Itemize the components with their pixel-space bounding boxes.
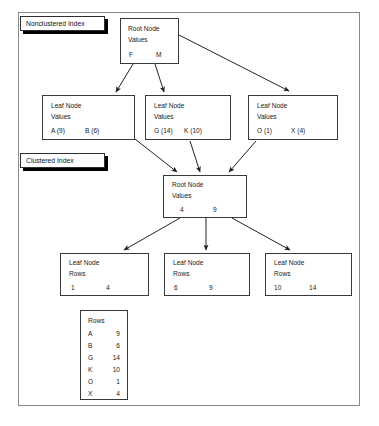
node-nonclustered-leaf-2: Leaf Node Values G (14) K (10) (145, 95, 231, 140)
node-nonclustered-leaf-3-line2: Values (257, 114, 277, 121)
node-clustered-leaf-1-key1: 1 (71, 285, 75, 292)
node-nonclustered-leaf-2-key2: K (10) (184, 128, 202, 135)
node-nonclustered-leaf-2-key1: G (14) (154, 128, 173, 135)
node-nonclustered-root: Root Node Values F M (120, 18, 179, 64)
node-clustered-leaf-3-key2: 14 (309, 285, 316, 292)
rows-table-key-4: O (88, 378, 93, 385)
rows-table-key-3: K (88, 366, 92, 373)
node-clustered-leaf-3-line2: Rows (274, 271, 291, 278)
rows-table-value-0: 9 (116, 330, 120, 337)
rows-table-value-3: 10 (113, 366, 120, 373)
node-nonclustered-leaf-3: Leaf Node Values O (1) X (4) (248, 95, 338, 140)
node-nonclustered-root-key2: M (156, 52, 162, 59)
rows-table-key-1: B (88, 342, 92, 349)
rows-table-key-2: G (88, 354, 93, 361)
label-clustered-index-text: Clustered Index (26, 157, 74, 164)
label-nonclustered-index: Nonclustered Index (20, 16, 105, 31)
node-nonclustered-leaf-1-key2: B (6) (85, 128, 99, 135)
node-nonclustered-leaf-1-line2: Values (51, 114, 71, 121)
diagram-canvas: Nonclustered Index Clustered Index Root … (0, 0, 379, 426)
node-clustered-leaf-1-line1: Leaf Node (69, 260, 99, 267)
node-nonclustered-root-line2: Values (128, 37, 148, 44)
node-clustered-leaf-2-key1: 6 (174, 285, 178, 292)
node-clustered-leaf-2-line1: Leaf Node (173, 260, 203, 267)
node-nonclustered-leaf-3-line1: Leaf Node (257, 103, 287, 110)
node-clustered-leaf-2-key2: 9 (209, 285, 213, 292)
rows-table-key-0: A (88, 330, 92, 337)
rows-table-value-2: 14 (113, 354, 120, 361)
node-clustered-leaf-3: Leaf Node Rows 10 14 (265, 253, 352, 296)
label-clustered-index: Clustered Index (20, 153, 105, 168)
node-clustered-leaf-1: Leaf Node Rows 1 4 (60, 253, 149, 296)
rows-table-value-4: 1 (116, 378, 120, 385)
node-nonclustered-leaf-2-line2: Values (154, 114, 174, 121)
node-clustered-leaf-1-key2: 4 (106, 285, 110, 292)
node-clustered-leaf-2: Leaf Node Rows 6 9 (164, 253, 250, 296)
node-nonclustered-leaf-1-key1: A (9) (51, 128, 65, 135)
node-clustered-root-key1: 4 (180, 207, 184, 214)
node-nonclustered-root-line1: Root Node (128, 26, 160, 33)
node-clustered-leaf-3-line1: Leaf Node (274, 260, 304, 267)
node-clustered-root-key2: 9 (213, 207, 217, 214)
node-nonclustered-leaf-3-key1: O (1) (257, 128, 272, 135)
rows-table-value-1: 6 (116, 342, 120, 349)
node-clustered-leaf-1-line2: Rows (69, 271, 86, 278)
rows-table-value-5: 4 (116, 390, 120, 397)
node-nonclustered-root-key1: F (129, 52, 133, 59)
node-clustered-root-line2: Values (172, 193, 192, 200)
node-clustered-root: Root Node Values 4 9 (163, 175, 247, 218)
node-nonclustered-leaf-2-line1: Leaf Node (154, 103, 184, 110)
node-nonclustered-leaf-3-key2: X (4) (291, 128, 305, 135)
rows-table: Rows A 9 B 6 G 14 K 10 O 1 X 4 (80, 310, 128, 400)
rows-table-key-5: X (88, 390, 92, 397)
node-clustered-leaf-2-line2: Rows (173, 271, 190, 278)
node-nonclustered-leaf-1: Leaf Node Values A (9) B (6) (42, 95, 135, 140)
node-nonclustered-leaf-1-line1: Leaf Node (51, 103, 81, 110)
rows-table-header: Rows (88, 317, 105, 324)
label-nonclustered-index-text: Nonclustered Index (26, 20, 85, 27)
node-clustered-root-line1: Root Node (172, 182, 204, 189)
node-clustered-leaf-3-key1: 10 (274, 285, 281, 292)
